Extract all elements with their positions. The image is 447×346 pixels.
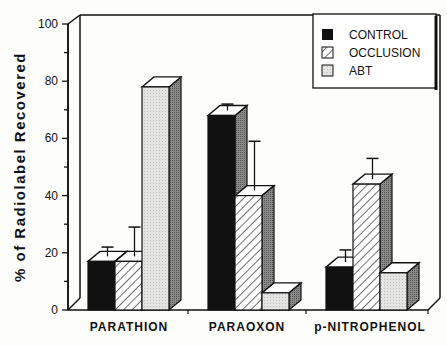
bars (88, 77, 428, 314)
legend-swatch-abt (322, 65, 333, 76)
y-axis-label: % of Radiolabel Recovered (11, 52, 28, 282)
category-label-p-nitrophenol: p-NITROPHENOL (314, 320, 426, 334)
y-tick-label: 80 (45, 74, 59, 88)
y-tick-label: 0 (51, 303, 58, 317)
y-axis: 020406080100 (38, 17, 68, 317)
bar-abt-parathion (142, 77, 181, 310)
y-tick-label: 20 (45, 246, 59, 260)
legend-swatch-occlusion (322, 47, 333, 58)
legend: CONTROL OCCLUSION ABT (313, 14, 436, 90)
legend-label-control: CONTROL (349, 28, 408, 42)
legend-label-occlusion: OCCLUSION (349, 46, 420, 60)
bar-abt-p-nitrophenol (380, 263, 419, 310)
category-label-parathion: PARATHION (90, 320, 169, 334)
y-tick-label: 40 (45, 189, 59, 203)
bar-chart: 020406080100 % of Radiolabel Recovered P… (0, 0, 447, 346)
y-tick-label: 100 (38, 17, 58, 31)
legend-swatch-control (322, 29, 333, 40)
category-label-paraoxon: PARAOXON (209, 320, 285, 334)
y-tick-label: 60 (45, 131, 59, 145)
legend-label-abt: ABT (349, 64, 373, 78)
